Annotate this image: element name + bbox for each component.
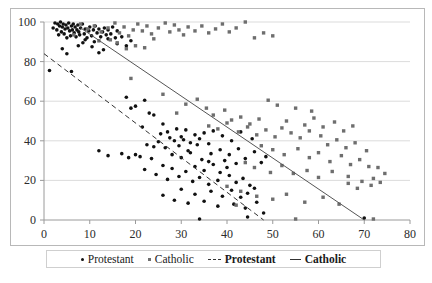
data-point-protestant: [195, 143, 199, 147]
legend-item-catholic-points[interactable]: Catholic: [141, 253, 201, 265]
data-point-protestant: [152, 113, 156, 117]
y-tick-label: 40: [24, 134, 36, 148]
data-point-protestant: [230, 189, 234, 193]
data-point-catholic: [72, 33, 75, 36]
x-tick-label: 70: [358, 227, 370, 241]
data-point-catholic: [173, 23, 176, 26]
data-point-catholic: [129, 77, 132, 80]
data-point-catholic: [157, 26, 160, 29]
data-point-catholic: [282, 153, 285, 156]
data-point-catholic: [273, 135, 276, 138]
data-point-catholic: [239, 115, 242, 118]
data-point-catholic: [376, 166, 379, 169]
data-point-catholic: [228, 30, 231, 33]
data-point-catholic: [347, 182, 350, 185]
data-point-catholic: [145, 24, 148, 27]
data-point-protestant: [248, 184, 252, 188]
legend-item-protestant-trend[interactable]: Protestant: [201, 253, 283, 265]
data-point-protestant: [106, 154, 110, 158]
data-point-catholic: [340, 154, 343, 157]
data-point-protestant: [177, 144, 181, 148]
data-point-protestant: [159, 132, 163, 136]
data-point-catholic: [365, 149, 368, 152]
data-point-protestant: [97, 51, 101, 55]
data-point-catholic: [276, 103, 279, 106]
x-tick-label: 30: [175, 227, 187, 241]
data-point-protestant: [207, 183, 211, 187]
data-point-protestant: [200, 158, 204, 162]
data-point-protestant: [125, 95, 129, 99]
scatter-plot: 02040608010001020304050607080: [0, 0, 432, 283]
data-point-catholic: [93, 24, 96, 27]
x-tick-label: 20: [130, 227, 142, 241]
data-point-protestant: [211, 129, 215, 133]
data-point-protestant: [78, 33, 82, 37]
data-point-protestant: [168, 136, 172, 140]
data-point-protestant: [161, 193, 165, 197]
data-point-catholic: [221, 22, 224, 25]
data-point-catholic: [106, 26, 109, 29]
data-point-catholic: [347, 175, 350, 178]
data-point-protestant: [143, 98, 147, 102]
data-point-protestant: [262, 211, 266, 215]
data-point-catholic: [134, 44, 137, 47]
data-point-catholic: [193, 29, 196, 32]
dashed-line-icon: [208, 259, 221, 260]
data-point-catholic: [351, 124, 354, 127]
data-point-protestant: [48, 69, 52, 73]
solid-line-icon: [290, 259, 301, 260]
data-point-catholic: [262, 31, 265, 34]
data-point-protestant: [166, 178, 170, 182]
data-point-catholic: [264, 128, 267, 131]
data-point-protestant: [177, 175, 181, 179]
y-tick-label: 60: [24, 94, 36, 108]
data-point-catholic: [164, 21, 167, 24]
data-point-catholic: [152, 37, 155, 40]
y-tick-label: 80: [24, 55, 36, 69]
y-tick-label: 20: [24, 173, 36, 187]
data-point-protestant: [71, 28, 75, 32]
data-point-protestant: [66, 26, 70, 30]
data-point-protestant: [81, 41, 85, 45]
data-point-catholic: [383, 172, 386, 175]
data-point-protestant: [218, 148, 222, 152]
data-point-catholic: [207, 31, 210, 34]
data-point-protestant: [173, 139, 177, 143]
legend-label: Catholic: [155, 253, 194, 265]
chart-legend: Protestant Catholic Protestant Catholic: [46, 250, 381, 268]
data-point-protestant: [57, 33, 61, 37]
data-point-catholic: [225, 185, 228, 188]
data-point-catholic: [214, 27, 217, 30]
data-point-protestant: [202, 169, 206, 173]
data-point-catholic: [319, 134, 322, 137]
legend-item-protestant-points[interactable]: Protestant: [74, 253, 141, 265]
data-point-protestant: [260, 161, 264, 165]
y-tick-label: 100: [18, 15, 36, 29]
data-point-catholic: [349, 163, 352, 166]
data-point-catholic: [150, 32, 153, 35]
data-point-protestant: [202, 131, 206, 135]
data-point-protestant: [264, 155, 268, 159]
data-point-protestant: [62, 32, 66, 36]
data-point-protestant: [161, 122, 165, 126]
legend-item-catholic-trend[interactable]: Catholic: [283, 253, 354, 265]
data-point-catholic: [177, 28, 180, 31]
data-point-catholic: [168, 30, 171, 33]
legend-label: Protestant: [88, 253, 134, 265]
data-point-catholic: [333, 120, 336, 123]
data-point-protestant: [97, 149, 101, 153]
data-point-catholic: [118, 31, 121, 34]
data-point-catholic: [356, 187, 359, 190]
data-point-catholic: [372, 177, 375, 180]
data-point-catholic: [200, 24, 203, 27]
data-point-protestant: [170, 167, 174, 171]
data-point-protestant: [244, 157, 248, 161]
data-point-protestant: [120, 152, 124, 156]
data-point-protestant: [186, 201, 190, 205]
data-point-catholic: [308, 156, 311, 159]
data-point-catholic: [239, 190, 242, 193]
data-point-catholic: [143, 46, 146, 49]
data-point-catholic: [109, 38, 112, 41]
data-point-catholic: [360, 180, 363, 183]
x-tick-label: 40: [221, 227, 233, 241]
